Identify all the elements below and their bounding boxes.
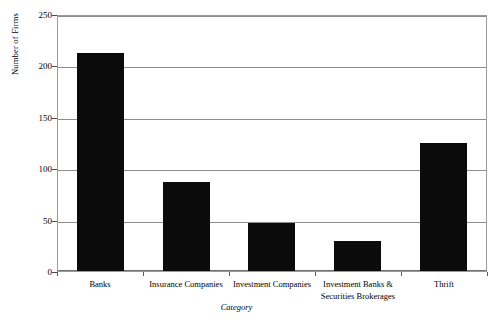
y-tick-label: 100 <box>12 165 52 174</box>
bar[interactable] <box>77 53 124 271</box>
bar[interactable] <box>248 223 295 271</box>
bars-layer <box>58 16 486 271</box>
y-tick-label: 50 <box>12 216 52 225</box>
bar-chart: Number of Firms 050100150200250 BanksIns… <box>0 0 503 324</box>
gridline <box>58 16 486 17</box>
bar[interactable] <box>420 143 467 272</box>
x-axis-title: Category <box>0 302 503 312</box>
bar-slot <box>229 16 315 271</box>
plot-area <box>57 15 487 272</box>
bar-slot <box>400 16 486 271</box>
y-axis-ticks: 050100150200250 <box>6 15 52 272</box>
bar-slot <box>144 16 230 271</box>
y-tick-label: 250 <box>12 11 52 20</box>
y-tick-label: 200 <box>12 62 52 71</box>
y-tick-label: 0 <box>12 268 52 277</box>
x-axis-title-text: Category <box>221 302 253 312</box>
bar[interactable] <box>334 241 381 271</box>
bar[interactable] <box>163 182 210 271</box>
bar-slot <box>58 16 144 271</box>
x-tick-mark <box>487 272 488 276</box>
y-tick-label: 150 <box>12 113 52 122</box>
bar-slot <box>315 16 401 271</box>
